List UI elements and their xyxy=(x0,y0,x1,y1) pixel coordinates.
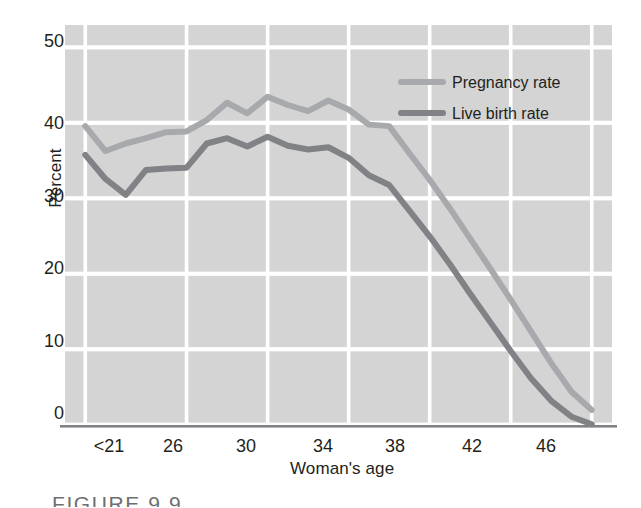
y-tick-20: 20 xyxy=(20,259,64,277)
y-tick-50: 50 xyxy=(20,32,64,50)
figure-caption: FIGURE 9.9 xyxy=(52,492,182,507)
x-tick-30: 30 xyxy=(216,437,276,455)
legend-label-live-birth-rate: Live birth rate xyxy=(452,106,549,122)
legend-swatch-pregnancy-rate xyxy=(398,79,446,85)
y-axis-title: Percent xyxy=(46,118,66,238)
gridline-vertical xyxy=(266,25,270,425)
x-axis-title: Woman's age xyxy=(290,459,394,479)
gridline-vertical xyxy=(185,25,189,425)
x-tick-38: 38 xyxy=(365,437,425,455)
gridline-vertical xyxy=(347,25,351,425)
gridline-vertical xyxy=(83,25,87,425)
x-tick-lt21: <21 xyxy=(79,437,139,455)
gridline-vertical xyxy=(590,25,594,425)
x-tick-42: 42 xyxy=(442,437,502,455)
x-tick-46: 46 xyxy=(516,437,576,455)
y-tick-0: 0 xyxy=(20,404,64,422)
x-tick-26: 26 xyxy=(143,437,203,455)
gridline-horizontal xyxy=(65,45,612,49)
x-axis-line xyxy=(60,425,617,428)
legend-label-pregnancy-rate: Pregnancy rate xyxy=(452,75,561,91)
x-tick-34: 34 xyxy=(293,437,353,455)
gridline-horizontal xyxy=(65,347,612,351)
gridline-horizontal xyxy=(65,272,612,276)
gridline-horizontal xyxy=(65,196,612,200)
y-tick-10: 10 xyxy=(20,332,64,350)
legend-swatch-live-birth-rate xyxy=(398,110,446,116)
